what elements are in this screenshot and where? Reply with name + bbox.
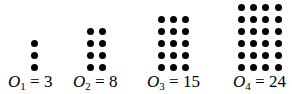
label-subscript: 4 (245, 80, 251, 92)
dot (262, 28, 269, 35)
label-letter: O (8, 72, 20, 91)
label-value: 24 (269, 72, 286, 91)
dot (250, 52, 257, 59)
dot (262, 16, 269, 23)
label-o3: O3 = 15 (147, 73, 200, 90)
dot (158, 40, 165, 47)
dot (275, 52, 282, 59)
dot (87, 40, 94, 47)
dot (158, 28, 165, 35)
dot (275, 40, 282, 47)
dot (170, 64, 177, 71)
dot (238, 28, 245, 35)
dot (262, 4, 269, 11)
label-value: 3 (44, 72, 53, 91)
label-letter: O (73, 72, 85, 91)
label-value: 8 (109, 72, 118, 91)
label-value: 15 (183, 72, 200, 91)
dot (31, 64, 38, 71)
dot (182, 40, 189, 47)
label-letter: O (147, 72, 159, 91)
dot (158, 52, 165, 59)
label-letter: O (233, 72, 245, 91)
dot (250, 16, 257, 23)
label-o4: O4 = 24 (233, 73, 286, 90)
label-o1: O1 = 3 (8, 73, 52, 90)
label-subscript: 3 (159, 80, 165, 92)
dot (99, 40, 106, 47)
equals-sign: = (30, 72, 40, 91)
dot (170, 16, 177, 23)
dot (275, 4, 282, 11)
equals-sign: = (169, 72, 179, 91)
dot (262, 64, 269, 71)
dot (87, 64, 94, 71)
dot (250, 4, 257, 11)
dot (31, 40, 38, 47)
dot (182, 64, 189, 71)
dot (182, 16, 189, 23)
label-o2: O2 = 8 (73, 73, 117, 90)
dot (87, 52, 94, 59)
dot (250, 28, 257, 35)
dot (275, 64, 282, 71)
equals-sign: = (95, 72, 105, 91)
dot (182, 52, 189, 59)
label-subscript: 2 (85, 80, 91, 92)
dot (158, 16, 165, 23)
equals-sign: = (255, 72, 265, 91)
dot (182, 28, 189, 35)
dot (238, 40, 245, 47)
dot (238, 16, 245, 23)
dot (238, 52, 245, 59)
label-subscript: 1 (20, 80, 26, 92)
dot (238, 4, 245, 11)
dot (238, 64, 245, 71)
dot (31, 52, 38, 59)
dot (250, 64, 257, 71)
dot (275, 16, 282, 23)
dot (275, 28, 282, 35)
dot (250, 40, 257, 47)
dot (170, 40, 177, 47)
dot (158, 64, 165, 71)
dot (170, 52, 177, 59)
dot (262, 52, 269, 59)
dot (99, 52, 106, 59)
dot (262, 40, 269, 47)
dot (87, 28, 94, 35)
dot (99, 64, 106, 71)
dot (170, 28, 177, 35)
dot (99, 28, 106, 35)
